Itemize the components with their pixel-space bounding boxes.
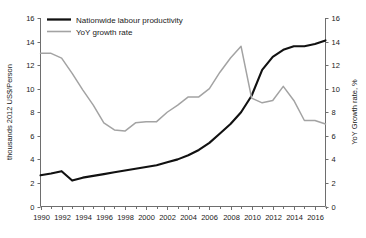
left-tick-label: 10 — [26, 85, 34, 94]
left-axis-ticks: 0246810121416 — [26, 14, 40, 212]
chart-container: 0246810121416 0246810121416 199019921994… — [0, 0, 366, 238]
x-tick-label: 1994 — [75, 213, 92, 222]
x-tick-label: 2004 — [180, 213, 197, 222]
dual-axis-line-chart: 0246810121416 0246810121416 199019921994… — [0, 0, 366, 238]
x-axis-ticks: 1990199219941996199820002002200420062008… — [33, 207, 326, 222]
series-line-productivity — [41, 40, 326, 180]
left-tick-label: 16 — [26, 14, 34, 23]
right-tick-label: 14 — [332, 38, 340, 47]
legend-label-productivity: Nationwide labour productivity — [76, 16, 183, 25]
x-tick-label: 2010 — [244, 213, 261, 222]
x-tick-label: 2014 — [286, 213, 303, 222]
right-tick-label: 0 — [332, 203, 336, 212]
right-axis-ticks: 0246810121416 — [326, 14, 340, 212]
right-tick-label: 16 — [332, 14, 340, 23]
left-tick-label: 0 — [30, 203, 34, 212]
y-axis-title: thousands 2012 US$/Person — [5, 64, 14, 160]
x-tick-label: 1998 — [117, 213, 134, 222]
x-tick-label: 2000 — [138, 213, 155, 222]
x-tick-label: 2008 — [223, 213, 240, 222]
x-tick-label: 2002 — [159, 213, 176, 222]
series-line-yoy-growth — [41, 46, 326, 131]
right-tick-label: 4 — [332, 155, 336, 164]
left-tick-label: 14 — [26, 38, 34, 47]
left-tick-label: 8 — [30, 108, 34, 117]
right-tick-label: 2 — [332, 179, 336, 188]
chart-legend: Nationwide labour productivity YoY growt… — [47, 16, 183, 37]
left-tick-label: 4 — [30, 155, 34, 164]
right-tick-label: 8 — [332, 108, 336, 117]
x-tick-label: 1990 — [33, 213, 50, 222]
legend-label-yoy: YoY growth rate — [76, 28, 133, 37]
x-tick-label: 1992 — [54, 213, 71, 222]
x-tick-label: 1996 — [96, 213, 113, 222]
right-tick-label: 10 — [332, 85, 340, 94]
right-tick-label: 6 — [332, 132, 336, 141]
right-tick-label: 12 — [332, 61, 340, 70]
x-tick-label: 2016 — [307, 213, 324, 222]
left-tick-label: 12 — [26, 61, 34, 70]
left-tick-label: 2 — [30, 179, 34, 188]
x-tick-label: 2006 — [201, 213, 218, 222]
x-tick-label: 2012 — [265, 213, 282, 222]
y2-axis-title: YoY Growth rate, % — [350, 79, 359, 145]
left-tick-label: 6 — [30, 132, 34, 141]
